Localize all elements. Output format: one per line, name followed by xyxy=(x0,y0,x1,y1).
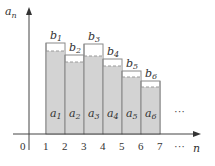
bars-layer: b1a1b2a2b3a3b4a4b5a5b6a6 xyxy=(46,29,160,134)
origin-label: 0 xyxy=(20,140,26,152)
b-label: b5 xyxy=(126,57,138,71)
x-tick-label: 7 xyxy=(157,140,163,152)
a-bar xyxy=(66,62,84,134)
x-tick-label: 2 xyxy=(62,140,68,152)
b-label: b1 xyxy=(50,29,62,43)
b-label: b4 xyxy=(107,45,119,59)
x-tick-labels: 1234567 xyxy=(43,140,163,152)
x-axis-arrow-icon xyxy=(193,131,201,137)
b-label: b6 xyxy=(145,67,157,81)
x-tick-label: 3 xyxy=(81,140,87,152)
b-label: b3 xyxy=(88,30,100,44)
b-label: b2 xyxy=(69,41,81,55)
x-tick-label: 5 xyxy=(119,140,125,152)
a-bar xyxy=(104,66,122,134)
x-axis-ellipsis: ··· xyxy=(174,140,185,152)
a-bar xyxy=(47,51,65,134)
a-bar xyxy=(85,56,103,134)
series-comparison-diagram: b1a1b2a2b3a3b4a4b5a5b6a6 an n 0 1234567 … xyxy=(0,0,215,166)
x-tick-label: 1 xyxy=(43,140,49,152)
y-axis-arrow-icon xyxy=(26,7,32,15)
x-tick-label: 4 xyxy=(100,140,106,152)
a-bar xyxy=(123,77,141,134)
x-axis-label: n xyxy=(193,142,200,155)
x-tick-label: 6 xyxy=(138,140,144,152)
y-axis-label: an xyxy=(5,5,17,20)
area-ellipsis: ··· xyxy=(174,105,185,117)
